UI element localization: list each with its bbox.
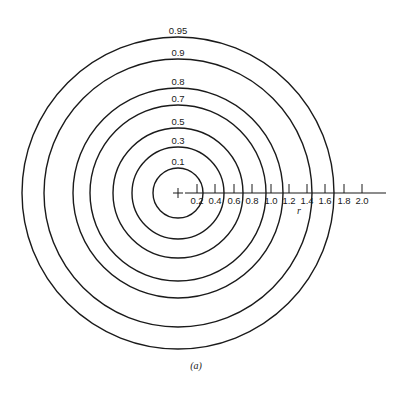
contour-label: 0.1 xyxy=(171,156,184,167)
contour-label: 0.95 xyxy=(169,25,188,36)
axis-tick-label: 0.2 xyxy=(190,195,203,206)
axis-tick-label: 1.0 xyxy=(264,195,277,206)
axis-tick-label: 1.8 xyxy=(337,195,350,206)
axis-tick-label: 1.2 xyxy=(282,195,295,206)
axis-tick-label: 2.0 xyxy=(355,195,368,206)
axis-tick-label: 0.6 xyxy=(227,195,240,206)
contour-labels: 0.10.30.50.70.80.90.95 xyxy=(169,25,188,167)
concentric-contour-diagram: 0.10.30.50.70.80.90.95 0.20.40.60.81.01.… xyxy=(0,0,404,393)
axis-tick-label: 0.8 xyxy=(245,195,258,206)
contour-label: 0.3 xyxy=(171,135,184,146)
figure-caption: (a) xyxy=(190,360,202,372)
radial-axis: 0.20.40.60.81.01.21.41.61.82.0 xyxy=(185,184,386,206)
contour-label: 0.7 xyxy=(171,93,184,104)
axis-tick-label: 1.6 xyxy=(318,195,331,206)
contour-label: 0.8 xyxy=(171,76,184,87)
contour-label: 0.9 xyxy=(171,47,184,58)
contour-label: 0.5 xyxy=(171,116,184,127)
axis-label-r: r xyxy=(297,205,301,216)
center-cross-icon xyxy=(173,188,183,198)
axis-tick-label: 1.4 xyxy=(300,195,313,206)
axis-tick-label: 0.4 xyxy=(208,195,221,206)
